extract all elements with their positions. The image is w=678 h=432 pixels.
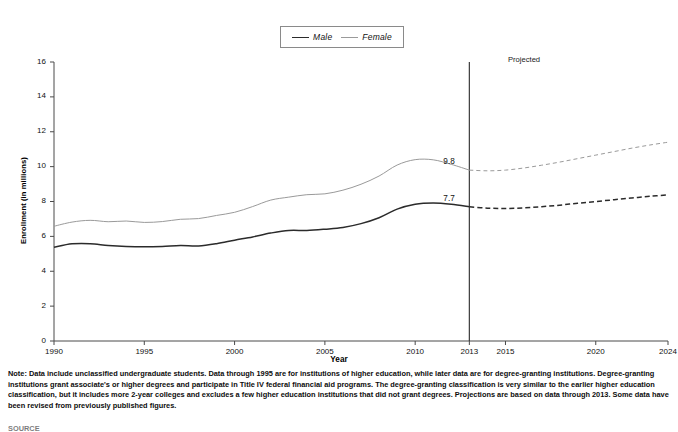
- y-tick-label: 16: [22, 57, 46, 66]
- x-tick-label: 2020: [573, 347, 619, 356]
- chart-note: Note: Data include unclassified undergra…: [8, 369, 670, 411]
- x-tick-label: 2015: [482, 347, 528, 356]
- y-tick-label: 4: [22, 266, 46, 275]
- data-value-label-female: 9.8: [443, 157, 454, 166]
- x-tick-label: 1995: [121, 347, 167, 356]
- x-tick-label: 1990: [31, 347, 77, 356]
- chart-plot-area: [0, 0, 678, 432]
- chart-source-clipped: SOURCE: [8, 424, 670, 432]
- data-value-label-male: 7.7: [443, 194, 454, 203]
- y-tick-label: 12: [22, 126, 46, 135]
- y-tick-label: 8: [22, 196, 46, 205]
- x-tick-label: 2005: [302, 347, 348, 356]
- x-tick-label: 2010: [392, 347, 438, 356]
- y-tick-label: 2: [22, 301, 46, 310]
- y-tick-label: 0: [22, 336, 46, 345]
- y-tick-label: 14: [22, 91, 46, 100]
- enrollment-chart-figure: Male Female Enrollment (in millions) Yea…: [0, 0, 678, 432]
- x-tick-label: 2000: [212, 347, 258, 356]
- y-tick-label: 6: [22, 231, 46, 240]
- y-tick-label: 10: [22, 161, 46, 170]
- x-tick-label: 2024: [645, 347, 678, 356]
